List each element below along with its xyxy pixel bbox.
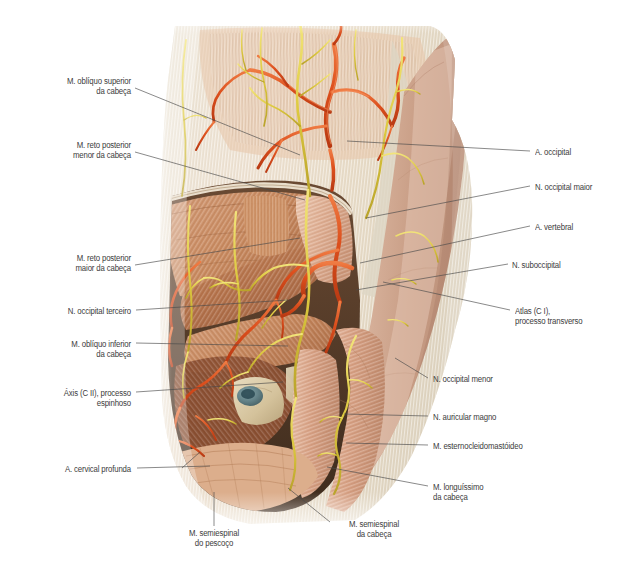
label-n-auricular-magno: N. auricular magno (433, 412, 543, 422)
label-m-esternocleidomastoideo: M. esternocleidomastóideo (433, 441, 582, 451)
label-atlas-ci-processo-transverso: Atlas (C I), processo transverso (515, 306, 617, 326)
rectus-capitis-posterior-minor (244, 195, 289, 256)
label-axis-cii-processo-espinhoso: Áxis (C II), processo espinhoso (40, 388, 131, 408)
label-a-vertebral: A. vertebral (535, 222, 619, 232)
label-n-occipital-menor: N. occipital menor (433, 374, 540, 384)
label-m-obliquo-inferior-da-cabeca: M. oblíquo inferior da cabeça (45, 339, 131, 359)
label-m-semiespinal-da-cabeca: M. semiespinal da cabeça (335, 519, 413, 539)
label-n-occipital-maior: N. occipital maior (535, 182, 619, 192)
label-a-occipital: A. occipital (535, 147, 619, 157)
label-a-cervical-profunda: A. cervical profunda (35, 464, 131, 474)
vertebral-canal-detail (237, 386, 263, 406)
anatomy-figure-page: M. oblíquo superior da cabeçaM. reto pos… (0, 0, 631, 582)
left-fade (140, 20, 172, 540)
label-n-occipital-terceiro: N. occipital terceiro (40, 306, 131, 316)
specimen-body (150, 20, 480, 540)
label-n-suboccipital: N. suboccipital (512, 260, 617, 270)
bottom-fade (0, 492, 631, 542)
label-m-obliquo-superior-da-cabeca: M. oblíquo superior da cabeça (35, 76, 131, 96)
label-m-reto-posterior-maior-da-cabeca: M. reto posterior maior da cabeça (46, 253, 131, 273)
top-fade (0, 0, 631, 34)
label-m-reto-posterior-menor-da-cabeca: M. reto posterior menor da cabeça (43, 140, 131, 160)
label-m-semiespinal-do-pescoco: M. semiespinal do pescoço (175, 528, 253, 548)
label-m-longuissimo-da-cabeca: M. longuíssimo da cabeça (433, 482, 517, 502)
